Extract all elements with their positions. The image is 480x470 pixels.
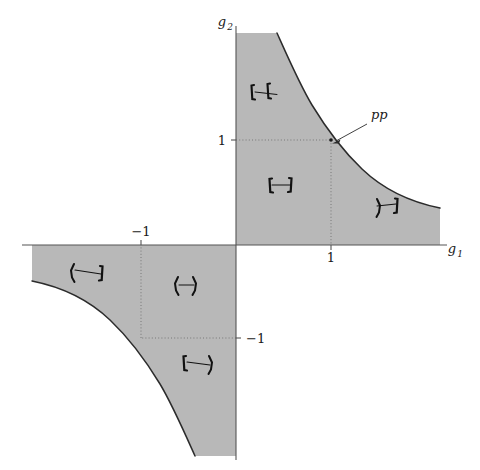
x-tick-label-1: 1 — [327, 250, 335, 265]
y-axis-label-subscript: 2 — [226, 22, 233, 32]
pp-point — [329, 138, 333, 142]
pp-leader-line — [336, 124, 367, 141]
x-axis-label: g — [448, 241, 456, 256]
y-axis-label: g — [218, 14, 226, 29]
region-q3-fill — [32, 245, 236, 456]
y-tick-label-neg1: −1 — [246, 331, 265, 346]
pp-annotation: pp — [329, 107, 388, 144]
x-tick-label-neg1: −1 — [131, 224, 150, 239]
y-tick-label-1: 1 — [218, 133, 226, 148]
x-axis-label-subscript: 1 — [457, 249, 463, 259]
region-q1-fill — [236, 33, 440, 245]
pp-label: pp — [371, 107, 388, 122]
hyperbola-region-figure: g 2 g 1 1 −1 1 −1 pp — [0, 0, 480, 470]
